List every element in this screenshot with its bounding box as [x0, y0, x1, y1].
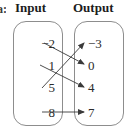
- output-value: 0: [88, 59, 95, 72]
- output-value: 4: [88, 81, 95, 94]
- input-column-header: Input: [15, 0, 46, 16]
- output-column-header: Output: [73, 0, 113, 16]
- input-set-oval: [13, 21, 63, 126]
- output-value: −3: [88, 37, 102, 50]
- output-value: 7: [88, 106, 95, 119]
- input-value: 8: [49, 106, 56, 119]
- input-value: 1: [49, 59, 56, 72]
- input-value: 5: [49, 81, 56, 94]
- input-value: −2: [41, 37, 55, 50]
- figure-label-prefix: a:: [0, 1, 6, 17]
- mapping-diagram-figure: a: Input Output −2 1 5 8 −3 0 4 7: [0, 0, 131, 130]
